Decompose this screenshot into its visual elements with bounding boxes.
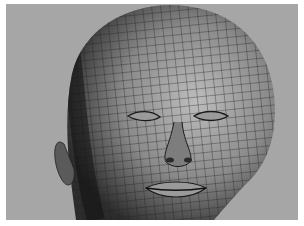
image-frame: [0, 0, 304, 226]
head-mesh-render: [6, 4, 298, 220]
render-viewport: [6, 4, 298, 220]
